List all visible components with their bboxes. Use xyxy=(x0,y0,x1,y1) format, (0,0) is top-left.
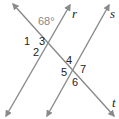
parallel-lines-diagram: r s t 68° 1 2 3 4 5 6 7 xyxy=(0,0,119,119)
angle-6-label: 6 xyxy=(72,76,78,88)
angle-2-label: 2 xyxy=(33,46,39,58)
label-r: r xyxy=(72,6,78,21)
line-t xyxy=(13,4,114,116)
angle-3-label: 3 xyxy=(39,35,45,47)
angle-1-label: 1 xyxy=(24,35,30,47)
angle-5-label: 5 xyxy=(61,66,67,78)
given-angle-label: 68° xyxy=(38,15,55,27)
label-t: t xyxy=(112,95,116,110)
angle-4-label: 4 xyxy=(66,54,72,66)
label-s: s xyxy=(110,6,115,21)
angle-7-label: 7 xyxy=(80,63,86,75)
